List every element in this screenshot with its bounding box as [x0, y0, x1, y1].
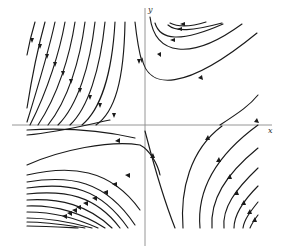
phase-portrait-svg — [0, 0, 281, 249]
x-axis-label: x — [268, 126, 273, 135]
lower-right-trajectories — [145, 125, 258, 228]
upper-left-trajectories — [27, 22, 142, 125]
upper-right-trajectories — [142, 17, 259, 125]
phase-portrait: x y — [0, 0, 281, 249]
y-axis-label: y — [148, 5, 153, 14]
lower-left-trajectories — [27, 120, 160, 228]
